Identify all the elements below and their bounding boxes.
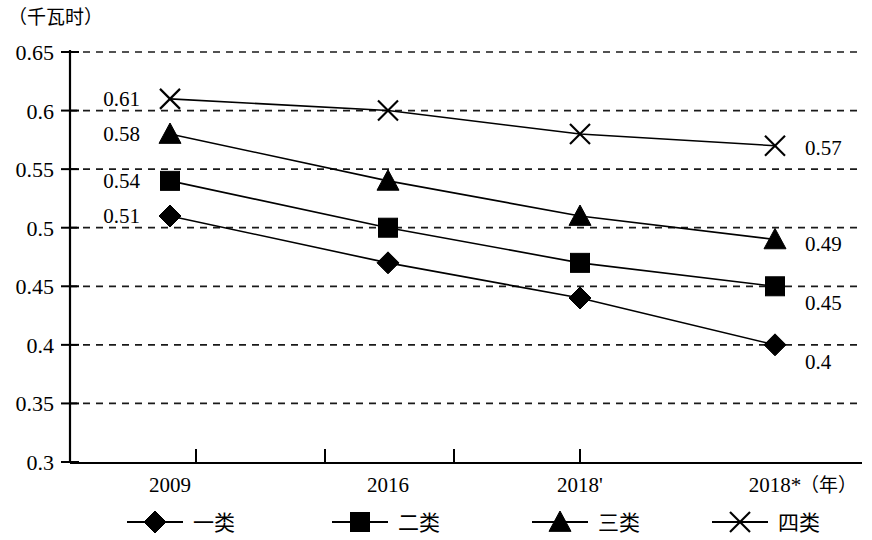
series-line (170, 134, 775, 239)
legend-label: 二类 (398, 511, 440, 535)
series-cross (160, 89, 785, 156)
legend-item-triangle[interactable]: 三类 (532, 511, 640, 535)
triangle-marker (159, 123, 181, 143)
y-tick-label: 0.45 (16, 274, 55, 299)
x-axis-title: （年） (800, 475, 857, 496)
y-tick-label: 0.3 (27, 450, 55, 475)
y-tick-label: 0.65 (16, 40, 55, 65)
y-tick-label: 0.6 (27, 99, 55, 124)
data-label-end: 0.57 (805, 136, 842, 160)
data-label-end: 0.45 (805, 291, 842, 315)
diamond-marker (764, 334, 786, 356)
data-label-start: 0.51 (103, 204, 140, 228)
y-tick-label: 0.5 (27, 216, 55, 241)
data-label-end: 0.4 (805, 350, 832, 374)
data-label-start: 0.61 (103, 87, 140, 111)
data-label-start: 0.58 (103, 122, 140, 146)
data-label-start: 0.54 (103, 169, 140, 193)
legend-item-diamond[interactable]: 一类 (127, 511, 235, 535)
y-axis-tick-labels: 0.650.60.550.50.450.40.350.3 (16, 40, 55, 475)
line-chart-plot: 0.650.60.550.50.450.40.350.3 20092016201… (0, 0, 872, 540)
legend-item-cross[interactable]: 四类 (712, 511, 820, 535)
square-marker (161, 171, 180, 190)
x-category-label: 2018' (557, 473, 603, 497)
square-marker (571, 253, 590, 272)
data-label-end: 0.49 (805, 232, 842, 256)
x-tick-marks-group (70, 449, 580, 463)
legend-item-square[interactable]: 二类 (332, 511, 440, 535)
legend-label: 三类 (598, 511, 640, 535)
x-category-label: 2016 (367, 473, 409, 497)
chart-legend: 一类二类三类四类 (127, 511, 820, 535)
diamond-marker (159, 205, 181, 227)
chart-container: （千瓦时） 0.650.60.550.50.450.40.350.3 20092… (0, 0, 872, 540)
square-marker (379, 218, 398, 237)
square-marker (766, 277, 785, 296)
x-category-label: 2009 (149, 473, 191, 497)
gridlines-group (70, 52, 862, 403)
triangle-marker (377, 170, 399, 190)
x-category-label: 2018* (749, 473, 802, 497)
legend-label: 四类 (778, 511, 820, 535)
y-tick-label: 0.4 (27, 333, 55, 358)
series-line (170, 216, 775, 345)
legend-square-icon (351, 513, 370, 532)
y-tick-label: 0.55 (16, 157, 55, 182)
legend-diamond-icon (144, 511, 166, 533)
data-labels-group: 0.510.40.540.450.580.490.610.57 (103, 87, 842, 374)
series-triangle (159, 123, 786, 249)
x-axis-category-labels: 200920162018'2018* (149, 473, 801, 497)
data-series-group (159, 89, 786, 356)
diamond-marker (377, 252, 399, 274)
legend-label: 一类 (193, 511, 235, 535)
series-line (170, 99, 775, 146)
diamond-marker (569, 287, 591, 309)
y-tick-label: 0.35 (16, 391, 55, 416)
